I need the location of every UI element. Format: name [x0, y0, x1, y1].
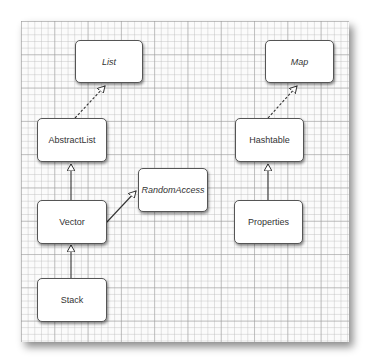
node-label: Vector [59, 217, 85, 227]
node-randomaccess: RandomAccess [138, 168, 208, 212]
node-label: Stack [61, 295, 84, 305]
node-label: Hashtable [249, 135, 290, 145]
node-list: List [75, 40, 143, 83]
node-hashtable: Hashtable [235, 118, 304, 162]
node-properties: Properties [234, 200, 303, 244]
node-label: Map [291, 57, 309, 67]
edge-vector-randomaccess [106, 191, 136, 223]
edge-hashtable-map [268, 86, 297, 118]
node-label: AbstractList [48, 135, 95, 145]
node-vector: Vector [37, 200, 107, 244]
node-abstractlist: AbstractList [37, 118, 107, 162]
edge-abstractlist-list [75, 86, 105, 118]
node-label: Properties [248, 217, 289, 227]
node-stack: Stack [37, 278, 107, 322]
node-label: RandomAccess [141, 185, 204, 195]
node-label: List [102, 57, 116, 67]
node-map: Map [265, 40, 334, 83]
